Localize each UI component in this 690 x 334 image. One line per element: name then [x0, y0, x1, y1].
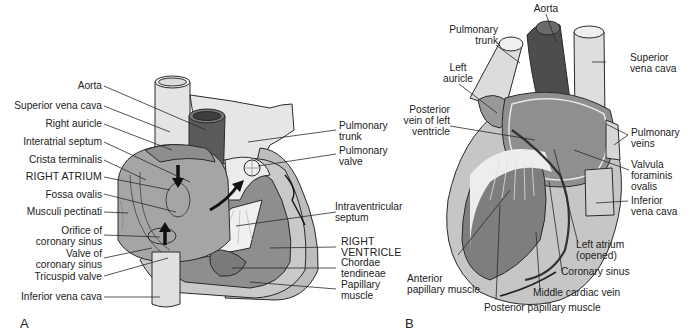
label-line: Pulmonary — [631, 127, 680, 138]
label-line: veins — [631, 138, 680, 149]
label-line: papillary muscle — [407, 284, 480, 295]
label-line: Pulmonary — [339, 120, 388, 131]
label-line: Chordae — [341, 257, 386, 268]
label-a-orifice-coronary-sinus: Orifice of coronary sinus — [0, 225, 102, 247]
label-b-left-atrium: Left atrium (opened) — [576, 239, 624, 261]
label-b-aorta: Aorta — [526, 3, 566, 14]
label-b-coronary-sinus: Coronary sinus — [561, 266, 630, 277]
label-line: muscle — [341, 290, 380, 301]
label-a-pulmonary-trunk: Pulmonary trunk — [339, 120, 388, 142]
label-line: Valvula — [631, 159, 672, 170]
label-b-middle-cardiac-vein: Middle cardiac vein — [533, 287, 620, 298]
label-a-papillary-muscle: Papillary muscle — [341, 279, 380, 301]
label-a-inferior-vena-cava: Inferior vena cava — [0, 291, 102, 302]
label-line: ventricle — [390, 126, 450, 137]
label-line: Papillary — [341, 279, 380, 290]
label-a-fossa-ovalis: Fossa ovalis — [0, 189, 102, 200]
label-line: septum — [335, 212, 402, 223]
label-a-intraventricular-septum: Intraventricular septum — [335, 201, 402, 223]
label-line: (opened) — [576, 250, 624, 261]
label-line: ovalis — [631, 181, 672, 192]
label-a-chordae-tendineae: Chordae tendineae — [341, 257, 386, 279]
label-a-crista-terminalis: Crista terminalis — [0, 154, 102, 165]
label-line: foraminis — [631, 170, 672, 181]
label-line: Pulmonary — [339, 145, 388, 156]
label-b-pulmonary-trunk: Pulmonary trunk — [440, 24, 498, 46]
label-b-anterior-papillary-muscle: Anterior papillary muscle — [407, 273, 480, 295]
label-line: tendineae — [341, 268, 386, 279]
label-line: vein of left — [390, 115, 450, 126]
label-line: vena cava — [630, 63, 676, 74]
label-line: vena cava — [631, 206, 677, 217]
label-line: coronary sinus — [0, 236, 102, 247]
label-a-valve-coronary-sinus: Valve of coronary sinus — [0, 248, 102, 270]
label-a-right-auricle: Right auricle — [0, 118, 102, 129]
label-line: trunk — [440, 35, 498, 46]
label-a-pulmonary-valve: Pulmonary valve — [339, 145, 388, 167]
label-b-inferior-vena-cava: Inferior vena cava — [631, 195, 677, 217]
panel-a-illustration — [118, 76, 318, 307]
label-b-valvula-foraminis-ovalis: Valvula foraminis ovalis — [631, 159, 672, 192]
label-line: trunk — [339, 131, 388, 142]
label-line: coronary sinus — [0, 259, 102, 270]
label-a-right-ventricle: RIGHT VENTRICLE — [341, 236, 401, 258]
label-b-posterior-vein-left-ventricle: Posterior vein of left ventricle — [390, 104, 450, 137]
label-line: Valve of — [0, 248, 102, 259]
label-b-left-auricle: Left auricle — [440, 62, 476, 84]
panel-letter-a: A — [20, 316, 29, 331]
heart-anatomy-figure: Aorta Superior vena cava Right auricle I… — [0, 0, 690, 334]
label-line: Posterior — [390, 104, 450, 115]
label-b-superior-vena-cava: Superior vena cava — [630, 52, 676, 74]
label-a-right-atrium: RIGHT ATRIUM — [0, 171, 102, 182]
label-a-aorta: Aorta — [20, 80, 102, 91]
label-b-pulmonary-veins: Pulmonary veins — [631, 127, 680, 149]
label-line: auricle — [440, 73, 476, 84]
label-line: Orifice of — [0, 225, 102, 236]
label-line: Left atrium — [576, 239, 624, 250]
label-a-tricuspid-valve: Tricuspid valve — [0, 271, 102, 282]
label-line: Pulmonary — [440, 24, 498, 35]
label-b-posterior-papillary-muscle: Posterior papillary muscle — [484, 302, 601, 313]
label-a-interatrial-septum: Interatrial septum — [0, 136, 102, 147]
label-line: Intraventricular — [335, 201, 402, 212]
label-line: Inferior — [631, 195, 677, 206]
label-line: Superior — [630, 52, 676, 63]
label-a-superior-vena-cava: Superior vena cava — [0, 100, 102, 111]
label-a-musculi-pectinati: Musculi pectinati — [0, 206, 102, 217]
label-line: Left — [440, 62, 476, 73]
panel-letter-b: B — [405, 316, 414, 331]
label-line: Anterior — [407, 273, 480, 284]
label-line: valve — [339, 156, 388, 167]
